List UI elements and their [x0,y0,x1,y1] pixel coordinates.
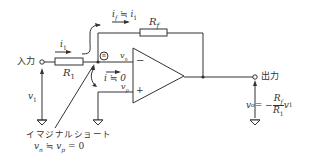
ground-symbol-vp [93,118,103,125]
input-label: 入力 [17,57,35,66]
i1-label: i1 [60,40,67,51]
vp-label: vp [121,83,129,93]
vn-label: vn [120,52,128,62]
imaginal-short-label: イマジナルショート [26,130,112,139]
rf-label: Rf [149,17,159,30]
if-label: if ≒ i1 [112,10,137,21]
output-label: 出力 [261,72,279,81]
ground-symbol-output [250,120,260,125]
r1-resistor [55,58,83,65]
node-n-label: n [102,52,106,58]
i-zero-label: i ≒ 0 [104,74,126,83]
ground-symbol-input [37,118,47,125]
gain-fraction: Rf R1 [273,94,284,117]
imaginal-short-equation: vn ≒ vp = 0 [34,142,84,153]
output-terminal [253,75,257,79]
input-terminal [40,60,44,64]
noninverting-input-sign: + [136,86,144,95]
output-equation: vo = − Rf R1 v1 [246,94,293,117]
inverting-amplifier-diagram: 入力 出力 R1 Rf i1 if ≒ i1 n vn vp i ≒ 0 − +… [0,0,313,156]
junction-dot-out [201,75,204,78]
v1-label: v1 [28,92,37,103]
junction-dot-n [96,60,99,63]
inverting-input-sign: − [136,56,144,66]
r1-label: R1 [63,68,75,81]
rf-resistor [140,29,167,36]
